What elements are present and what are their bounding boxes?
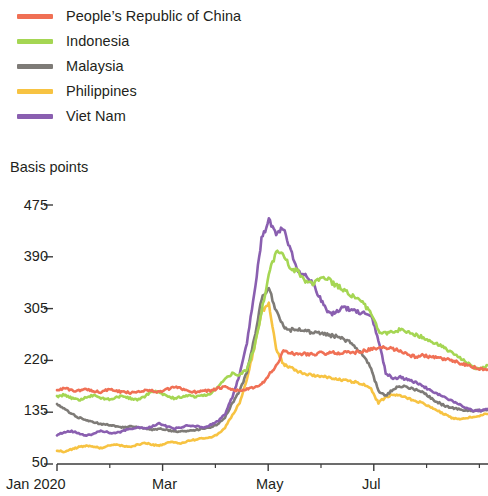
xtick-label-jan-2020: Jan 2020: [6, 476, 66, 492]
plot-area: 475 390 305 220 135 50 Jan 2020 Mar May …: [0, 190, 488, 496]
legend-label-viet-nam: Viet Nam: [66, 109, 126, 124]
legend-item-viet-nam: Viet Nam: [0, 104, 488, 129]
legend-item-philippines: Philippines: [0, 79, 488, 104]
xtick-label-mar: Mar: [152, 476, 177, 492]
ytick-label-475: 475: [0, 197, 48, 213]
legend-swatch-indonesia-icon: [17, 39, 53, 44]
chart-svg: [0, 190, 488, 496]
legend-label-prc: People’s Republic of China: [66, 9, 241, 24]
legend-item-malaysia: Malaysia: [0, 54, 488, 79]
figure: People’s Republic of China Indonesia Mal…: [0, 0, 488, 496]
legend-swatch-philippines-icon: [17, 89, 53, 94]
ytick-label-390: 390: [0, 248, 48, 264]
ytick-label-305: 305: [0, 300, 48, 316]
legend-label-indonesia: Indonesia: [66, 34, 129, 49]
legend-item-prc: People’s Republic of China: [0, 4, 488, 29]
ytick-label-50: 50: [0, 454, 48, 470]
legend-swatch-malaysia-icon: [17, 64, 53, 69]
legend-label-philippines: Philippines: [66, 84, 137, 99]
legend-item-indonesia: Indonesia: [0, 29, 488, 54]
xtick-label-jul: Jul: [362, 476, 381, 492]
series-line-philippines: [57, 303, 488, 452]
legend-swatch-prc-icon: [17, 14, 53, 19]
ytick-label-135: 135: [0, 402, 48, 418]
chart-legend: People’s Republic of China Indonesia Mal…: [0, 4, 488, 129]
xtick-label-may: May: [256, 476, 283, 492]
legend-swatch-viet-nam-icon: [17, 114, 53, 119]
ytick-label-220: 220: [0, 351, 48, 367]
y-axis-title: Basis points: [10, 159, 88, 175]
series-line-malaysia: [57, 288, 488, 432]
legend-label-malaysia: Malaysia: [66, 59, 124, 74]
